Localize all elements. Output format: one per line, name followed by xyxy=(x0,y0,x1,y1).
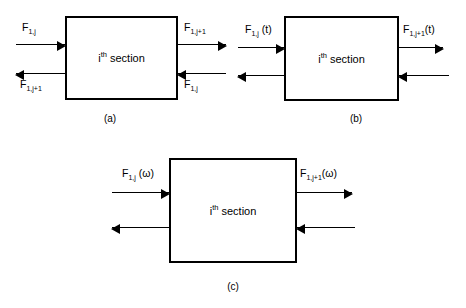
force-subscript: 1,j xyxy=(251,30,258,37)
force-label-a-top-left: F1,j xyxy=(22,22,36,33)
arrow-a-top-right xyxy=(178,44,226,45)
section-block-c: ith section xyxy=(169,158,297,263)
section-block-a: ith section xyxy=(65,16,178,100)
force-subscript: 1,j xyxy=(28,28,35,35)
arrow-c-bottom-left xyxy=(112,227,169,228)
block-label-rest: section xyxy=(221,204,256,216)
arrow-a-bottom-left xyxy=(16,73,65,74)
arrow-b-top-right xyxy=(399,47,443,48)
panel-b: ith section F1,j (t) F1,j+1(t) (b) xyxy=(233,0,466,130)
arrow-b-top-left xyxy=(238,47,284,48)
section-block-label-b: ith section xyxy=(286,53,397,64)
section-block-b: ith section xyxy=(284,16,399,101)
arrow-b-bottom-left xyxy=(238,75,284,76)
arrow-c-bottom-right xyxy=(297,227,355,228)
force-suffix: (ω) xyxy=(136,167,154,179)
force-suffix: (t) xyxy=(259,23,272,35)
force-subscript: 1,j+1 xyxy=(409,30,424,37)
panel-caption-a: (a) xyxy=(97,114,123,124)
arrow-c-top-left xyxy=(112,192,169,193)
force-label-c-top-right: F1,j+1(ω) xyxy=(300,168,337,179)
block-label-superscript: th xyxy=(101,50,107,59)
section-block-label-a: ith section xyxy=(67,53,176,64)
section-block-label-c: ith section xyxy=(171,205,295,216)
force-suffix: (t) xyxy=(425,23,435,35)
force-label-a-bottom-left: F1,j+1 xyxy=(20,79,42,90)
block-label-superscript: th xyxy=(212,202,218,211)
block-label-rest: section xyxy=(330,52,365,64)
force-label-b-top-left: F1,j (t) xyxy=(245,24,272,35)
force-label-a-top-right: F1,j+1 xyxy=(184,22,206,33)
force-label-b-top-right: F1,j+1(t) xyxy=(403,24,435,35)
force-suffix: (ω) xyxy=(322,167,337,179)
force-label-c-top-left: F1,j (ω) xyxy=(122,168,154,179)
panel-a: ith section F1,j F1,j+1 F1,j+1 F1,j (a) xyxy=(0,0,233,130)
arrow-c-top-right xyxy=(297,192,352,193)
force-subscript: 1,j+1 xyxy=(190,28,205,35)
force-subscript: 1,j+1 xyxy=(26,85,41,92)
force-subscript: 1,j xyxy=(128,174,135,181)
arrow-a-bottom-right xyxy=(178,73,226,74)
panel-caption-c: (c) xyxy=(220,282,246,292)
arrow-b-bottom-right xyxy=(399,75,449,76)
arrow-a-top-left xyxy=(16,44,65,45)
force-label-a-bottom-right: F1,j xyxy=(184,79,198,90)
force-subscript: 1,j xyxy=(190,85,197,92)
panel-caption-b: (b) xyxy=(343,114,369,124)
block-label-superscript: th xyxy=(321,50,327,59)
block-label-rest: section xyxy=(110,52,145,64)
panel-c: ith section F1,j (ω) F1,j+1(ω) (c) xyxy=(0,130,466,308)
force-subscript: 1,j+1 xyxy=(306,174,321,181)
